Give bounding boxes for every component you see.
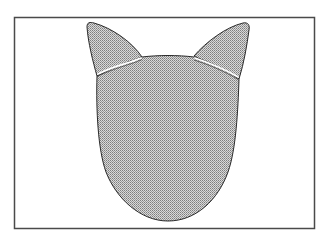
head-shape <box>97 56 239 222</box>
figure-canvas <box>0 0 326 239</box>
